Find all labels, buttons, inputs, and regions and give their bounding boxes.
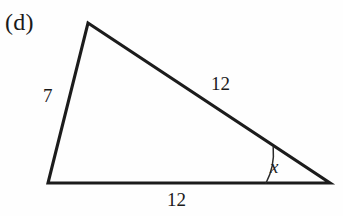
part-label: (d) [5, 10, 34, 34]
angle-label-x: x [270, 157, 278, 176]
side-label-base: 12 [167, 190, 186, 209]
triangle-drawing [0, 0, 343, 216]
side-label-hypotenuse: 12 [211, 74, 230, 93]
geometry-figure: (d) 7 12 12 x [0, 0, 343, 216]
triangle-shape [48, 23, 330, 183]
side-label-left: 7 [43, 86, 53, 105]
